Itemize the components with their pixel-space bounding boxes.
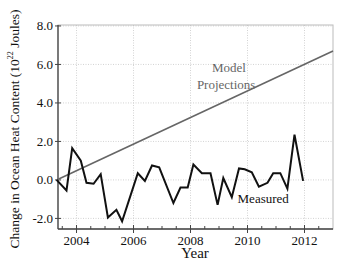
annotation-model: Model bbox=[212, 60, 246, 75]
annotations: ModelProjectionsMeasured bbox=[197, 60, 289, 206]
x-axis-label: Year bbox=[181, 245, 209, 261]
y-axis-label: Change in Ocean Heat Content (1022 Joule… bbox=[6, 10, 22, 249]
y-tick-label: 6.0 bbox=[37, 57, 53, 72]
y-axis-ticks: -2.00.02.04.06.08.0 bbox=[32, 18, 61, 225]
y-tick-label: -2.0 bbox=[32, 211, 53, 226]
series-lines bbox=[57, 51, 333, 221]
measured-line bbox=[57, 135, 304, 222]
plot-frame bbox=[58, 25, 333, 229]
annotation-measured: Measured bbox=[238, 191, 290, 206]
y-tick-label: 2.0 bbox=[37, 134, 53, 149]
grid-lines bbox=[58, 25, 333, 229]
y-tick-label: 0.0 bbox=[37, 172, 53, 187]
annotation-projections: Projections bbox=[197, 77, 256, 92]
x-tick-label: 2004 bbox=[64, 233, 91, 248]
x-tick-label: 2006 bbox=[121, 233, 148, 248]
y-tick-label: 4.0 bbox=[37, 95, 53, 110]
y-tick-label: 8.0 bbox=[37, 18, 53, 33]
x-tick-label: 2012 bbox=[292, 233, 318, 248]
x-tick-label: 2010 bbox=[235, 233, 261, 248]
ocean-heat-chart: 20042006200820102012 -2.00.02.04.06.08.0… bbox=[0, 0, 349, 272]
